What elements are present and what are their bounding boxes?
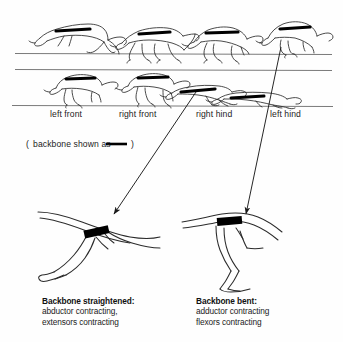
dog-lower-2 (116, 74, 190, 108)
caption-left-title: Backbone straightened: (42, 296, 134, 306)
legend-close-paren: ) (131, 139, 134, 149)
dog-upper-2 (110, 28, 199, 63)
left-leg-diagram (38, 212, 160, 281)
caption-right-line-2: flexors contracting (196, 317, 269, 327)
legend-label: backbone shown as (33, 139, 111, 149)
dog-gait-figure (0, 0, 343, 342)
dog-upper-4 (256, 22, 333, 58)
lower-row-dogs (44, 74, 301, 109)
dog-upper-3 (182, 27, 263, 64)
gait-label-right-front: right front (119, 109, 156, 119)
upper-row-dogs (29, 22, 333, 64)
caption-left: Backbone straightened: abductor contract… (42, 296, 134, 327)
ground-line-mid (15, 70, 332, 71)
right-leg-diagram (182, 213, 282, 292)
legend-open-paren: ( (26, 139, 29, 149)
caption-right: Backbone bent: adductor contracting flex… (196, 296, 269, 327)
gait-label-right-hind: right hind (196, 109, 232, 119)
gait-label-left-front: left front (50, 109, 82, 119)
arrow-right (246, 47, 281, 214)
ground-line-lower (12, 106, 333, 107)
dog-lower-1 (44, 75, 118, 108)
caption-right-title: Backbone bent: (196, 296, 269, 306)
gait-label-left-hind: left hind (270, 109, 301, 119)
caption-right-line-1: adductor contracting (196, 306, 269, 316)
dog-upper-1 (29, 24, 126, 54)
caption-left-line-2: extensors contracting (42, 317, 134, 327)
backbone-bar-right (217, 216, 243, 226)
callout-arrows (114, 47, 281, 214)
caption-left-line-1: abductor contracting, (42, 306, 134, 316)
dog-lower-3 (160, 85, 246, 106)
figure-page: left front right front right hind left h… (0, 0, 343, 342)
